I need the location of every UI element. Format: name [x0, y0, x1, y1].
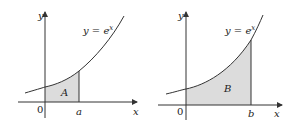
figure: y x 0 a A y = ex y x 0 b B y = ex — [0, 0, 288, 125]
region-label-a: A — [60, 87, 68, 98]
curve-label: y = ex — [224, 24, 255, 36]
shaded-region-b — [186, 40, 251, 105]
region-label-b: B — [223, 83, 231, 94]
panel-right: y x 0 b B y = ex — [158, 10, 282, 120]
bound-label-b: b — [248, 108, 254, 119]
origin-label: 0 — [37, 104, 43, 115]
origin-label: 0 — [177, 106, 183, 117]
curve-label: y = ex — [82, 24, 113, 36]
y-axis-label: y — [37, 10, 44, 21]
panel-left: y x 0 a A y = ex — [18, 10, 139, 118]
x-axis-label: x — [133, 106, 139, 117]
x-axis-label: x — [274, 108, 280, 119]
bound-label-a: a — [76, 106, 82, 117]
y-axis-label: y — [177, 10, 184, 21]
